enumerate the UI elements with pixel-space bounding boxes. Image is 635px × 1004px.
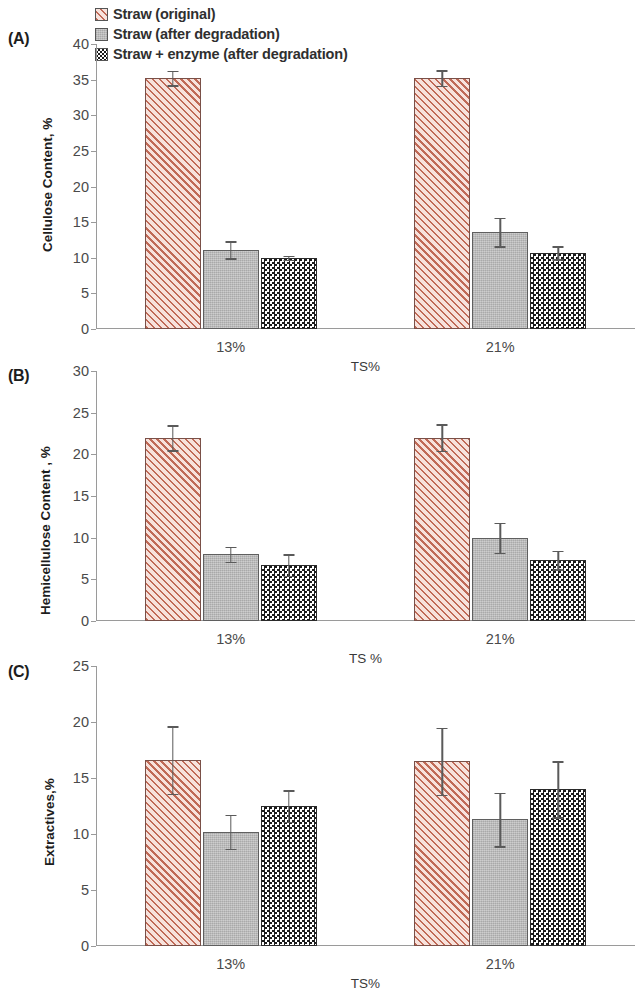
error-bar-cap [553,569,564,570]
y-tick-mark [91,621,96,622]
y-tick-mark [91,44,96,45]
y-tick-mark [91,538,96,539]
error-bar-cap [495,246,506,247]
y-axis-line-b [96,371,97,621]
y-tick-label: 15 [49,488,89,504]
error-bar-cap [283,822,294,823]
error-bar [288,790,289,821]
bar-straw-enzyme-13pct [261,258,317,329]
y-tick-label: 25 [49,143,89,159]
y-tick-label: 0 [49,321,89,337]
error-bar [500,523,501,553]
error-bar-cap [283,256,294,257]
error-bar-cap [553,761,564,762]
error-bar-cap [167,726,178,727]
error-bar-cap [495,218,506,219]
error-bar [442,70,443,86]
y-tick-label: 25 [49,658,89,674]
y-tick-label: 40 [49,36,89,52]
bar-straw-original-21pct [414,78,470,329]
error-bar-cap [437,451,448,452]
y-tick-label: 0 [49,613,89,629]
chart-panel-b: (B) Hemicellulose Content , % 0510152025… [0,355,635,665]
panel-tag-c: (C) [8,663,29,681]
error-bar [442,728,443,795]
error-bar-cap [225,547,236,548]
error-bar [172,71,173,85]
error-bar-cap [225,849,236,850]
error-bar [500,218,501,247]
x-tick-label: 13% [216,339,245,355]
error-bar-cap [553,817,564,818]
bar-straw-enzyme-21pct [530,253,586,329]
y-tick-label: 15 [49,770,89,786]
bar-straw-original-13pct [145,78,201,329]
y-axis-line-a [96,44,97,329]
y-tick-mark [91,222,96,223]
y-tick-mark [91,187,96,188]
error-bar-cap [437,424,448,425]
y-tick-mark [91,151,96,152]
y-tick-label: 20 [49,714,89,730]
y-tick-label: 10 [49,826,89,842]
y-tick-label: 30 [49,363,89,379]
error-bar [442,424,443,451]
y-tick-mark [91,666,96,667]
error-bar-cap [167,450,178,451]
x-tick-label: 21% [486,956,515,972]
y-tick-label: 0 [49,938,89,954]
y-tick-label: 30 [49,107,89,123]
bar-straw-original-21pct [414,438,470,621]
error-bar [500,793,501,847]
y-tick-mark [91,413,96,414]
y-axis-title-c: Extractives,% [42,778,57,866]
error-bar-cap [495,523,506,524]
y-tick-mark [91,115,96,116]
error-bar-cap [283,576,294,577]
y-tick-mark [91,946,96,947]
error-bar [558,551,559,569]
y-tick-label: 25 [49,405,89,421]
y-tick-mark [91,778,96,779]
error-bar-cap [167,85,178,86]
y-tick-mark [91,80,96,81]
bar-straw-degraded-13pct [203,554,259,621]
error-bar-cap [225,241,236,242]
error-bar-cap [167,794,178,795]
x-tick-label: 13% [216,631,245,647]
error-bar-cap [225,815,236,816]
error-bar [172,726,173,793]
y-tick-label: 5 [49,285,89,301]
y-tick-mark [91,722,96,723]
error-bar [172,425,173,450]
error-bar-cap [225,258,236,259]
y-tick-label: 15 [49,214,89,230]
x-tick-label: 21% [486,339,515,355]
error-bar-cap [553,259,564,260]
error-bar-cap [167,71,178,72]
y-tick-mark [91,454,96,455]
error-bar-cap [437,728,448,729]
y-tick-label: 35 [49,72,89,88]
y-tick-label: 5 [49,571,89,587]
error-bar-cap [225,562,236,563]
bar-straw-enzyme-13pct [261,806,317,946]
y-tick-label: 10 [49,530,89,546]
panel-tag-a: (A) [8,30,29,48]
y-tick-mark [91,329,96,330]
error-bar-cap [437,86,448,87]
y-tick-label: 10 [49,250,89,266]
x-axis-title-c: TS% [351,976,380,991]
plot-area-c: 051015202513%21%TS% [96,666,635,946]
y-tick-mark [91,834,96,835]
panel-tag-b: (B) [8,367,29,385]
error-bar [558,246,559,259]
y-tick-mark [91,579,96,580]
bar-straw-original-13pct [145,438,201,621]
chart-panel-c: (C) Extractives,% 051015202513%21%TS% [0,648,635,1004]
error-bar-cap [437,70,448,71]
y-tick-mark [91,258,96,259]
error-bar-cap [553,551,564,552]
bar-straw-degraded-13pct [203,250,259,329]
error-bar-cap [553,246,564,247]
